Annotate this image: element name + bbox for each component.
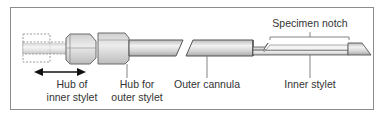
- label-hub-for-outer-stylet: Hub for outer stylet: [97, 78, 177, 104]
- outer-cannula-segment-2: [186, 40, 253, 56]
- outer-stylet-hub: [98, 33, 129, 64]
- label-outer-cannula: Outer cannula: [167, 78, 247, 91]
- inner-stylet-shaft-left: [23, 43, 68, 54]
- inner-stylet-shaft: [253, 50, 348, 55]
- outer-cannula-segment-1: [129, 40, 183, 56]
- label-inner-stylet: Inner stylet: [270, 78, 350, 91]
- specimen-notch-bracket: [270, 37, 349, 40]
- needle-tip: [348, 43, 371, 55]
- inner-stylet-hub: [66, 34, 96, 64]
- label-specimen-notch: Specimen notch: [270, 17, 350, 30]
- label-line: outer stylet: [97, 91, 177, 104]
- label-line: Hub for: [97, 78, 177, 91]
- double-arrow-icon: [34, 68, 86, 76]
